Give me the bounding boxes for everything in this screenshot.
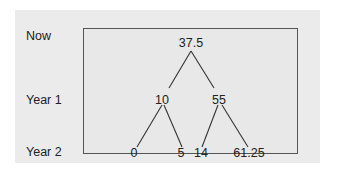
- edge-now-to-10: [169, 51, 191, 88]
- node-year2-ud: 14: [194, 146, 208, 160]
- edge-55-to-61.25: [222, 105, 248, 147]
- node-year2-dd: 0: [131, 146, 138, 160]
- node-year1-up: 55: [212, 93, 226, 107]
- node-year2-uu: 61.25: [233, 146, 264, 160]
- edge-55-to-14: [202, 105, 218, 147]
- edge-10-to-5: [164, 105, 182, 147]
- edge-now-to-55: [191, 51, 214, 88]
- node-year1-down: 10: [155, 93, 169, 107]
- edge-10-to-0: [137, 105, 162, 147]
- node-now: 37.5: [179, 36, 203, 50]
- node-year2-du: 5: [178, 146, 185, 160]
